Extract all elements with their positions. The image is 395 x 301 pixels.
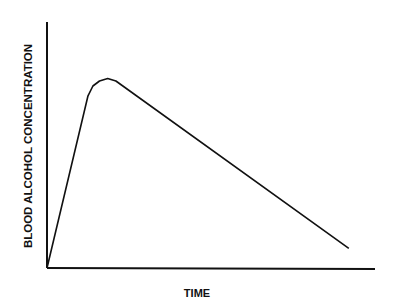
x-axis [47, 268, 375, 269]
bac-chart: BLOOD ALCOHOL CONCENTRATION TIME [0, 0, 395, 301]
y-axis-label: BLOOD ALCOHOL CONCENTRATION [22, 44, 34, 248]
bac-curve [47, 79, 349, 268]
x-axis-label: TIME [184, 287, 210, 299]
